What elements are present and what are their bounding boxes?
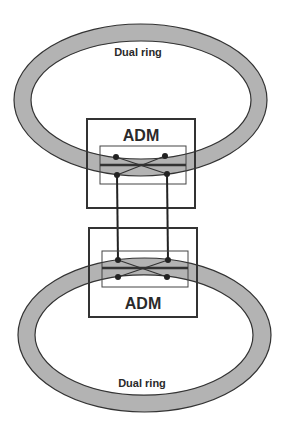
bottom-adm-port [164,274,170,280]
bottom-adm-port [115,257,121,263]
top-adm-port [162,153,168,159]
bottom-adm-port [165,257,171,263]
interconnect-link-left [117,175,118,260]
top-dual-ring: Dual ring [14,24,267,176]
top-adm-label: ADM [123,127,159,144]
interconnect-link-right [167,174,168,260]
bottom-ring-label: Dual ring [118,377,166,389]
top-ring-label: Dual ring [114,46,162,58]
bottom-dual-ring: Dual ring [18,258,271,412]
interconnect-links [117,174,168,260]
diagram-canvas: Dual ring Dual ring ADM ADM [0,0,284,436]
bottom-adm-label: ADM [125,295,161,312]
bottom-adm-port [115,274,121,280]
top-adm-port [113,154,119,160]
